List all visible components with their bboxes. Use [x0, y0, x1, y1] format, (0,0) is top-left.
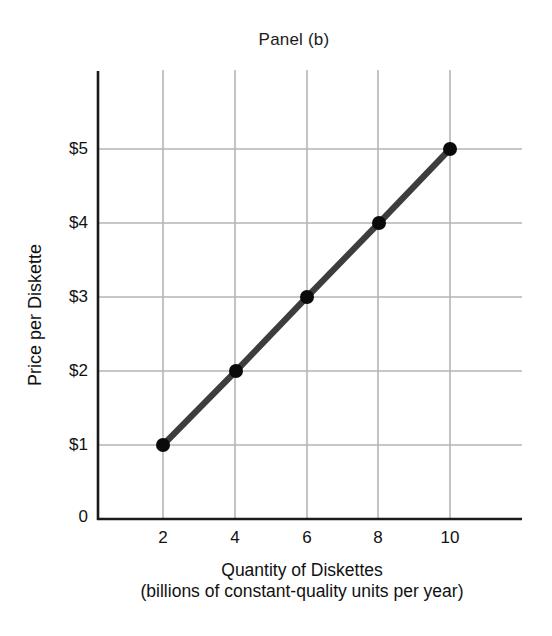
x-tick-label-8: 8	[348, 528, 408, 548]
chart-figure: Panel (b)	[0, 0, 552, 636]
x-axis-title-line2: (billions of constant-quality units per …	[80, 581, 524, 602]
y-axis-title-wrapper: Price per Diskette	[0, 0, 70, 636]
data-point-4-2	[229, 364, 243, 378]
x-axis-title: Quantity of Diskettes (billions of const…	[80, 560, 524, 603]
data-point-10-5	[443, 142, 457, 156]
data-point-2-1	[156, 438, 170, 452]
x-axis-title-line1: Quantity of Diskettes	[80, 560, 524, 581]
x-tick-label-4: 4	[205, 528, 265, 548]
x-tick-label-2: 2	[133, 528, 193, 548]
x-tick-label-10: 10	[420, 528, 480, 548]
data-point-8-4	[372, 216, 386, 230]
data-point-6-3	[300, 290, 314, 304]
x-tick-label-6: 6	[277, 528, 337, 548]
y-axis-title: Price per Diskette	[25, 244, 46, 386]
